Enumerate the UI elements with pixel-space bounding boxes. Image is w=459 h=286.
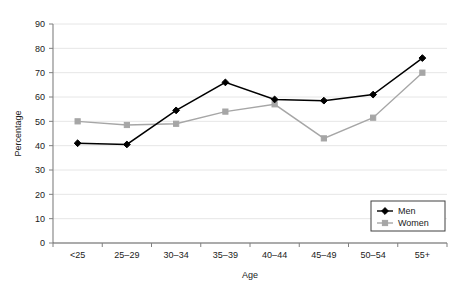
x-tick-label: 30–34: [164, 250, 189, 260]
y-tick-label: 90: [35, 19, 45, 29]
y-tick-label: 50: [35, 117, 45, 127]
x-tick-label: 25–29: [114, 250, 139, 260]
x-tick-label: 45–49: [311, 250, 336, 260]
y-tick-label: 80: [35, 44, 45, 54]
y-tick-label: 30: [35, 165, 45, 175]
legend: MenWomen: [371, 201, 445, 231]
data-point: [223, 109, 228, 114]
x-axis-title: Age: [242, 270, 258, 280]
legend-label: Women: [398, 218, 429, 228]
data-point: [321, 136, 326, 141]
y-tick-label: 60: [35, 92, 45, 102]
data-point: [371, 115, 376, 120]
legend-label: Men: [398, 206, 416, 216]
legend-marker: [382, 220, 387, 225]
data-point: [420, 70, 425, 75]
y-axis-title: Percentage: [13, 110, 23, 156]
line-chart: 0102030405060708090 <2525–2930–3435–3940…: [0, 0, 459, 286]
data-point: [75, 119, 80, 124]
data-point: [174, 121, 179, 126]
x-tick-label: 40–44: [262, 250, 287, 260]
x-tick-label: 35–39: [213, 250, 238, 260]
y-tick-label: 40: [35, 141, 45, 151]
y-tick-label: 70: [35, 68, 45, 78]
y-tick-label: 0: [40, 238, 45, 248]
chart-canvas: 0102030405060708090 <2525–2930–3435–3940…: [0, 0, 459, 286]
x-tick-label: <25: [70, 250, 85, 260]
x-tick-label: 55+: [415, 250, 430, 260]
x-tick-label: 50–54: [361, 250, 386, 260]
y-tick-label: 20: [35, 190, 45, 200]
data-point: [124, 122, 129, 127]
y-tick-label: 10: [35, 214, 45, 224]
